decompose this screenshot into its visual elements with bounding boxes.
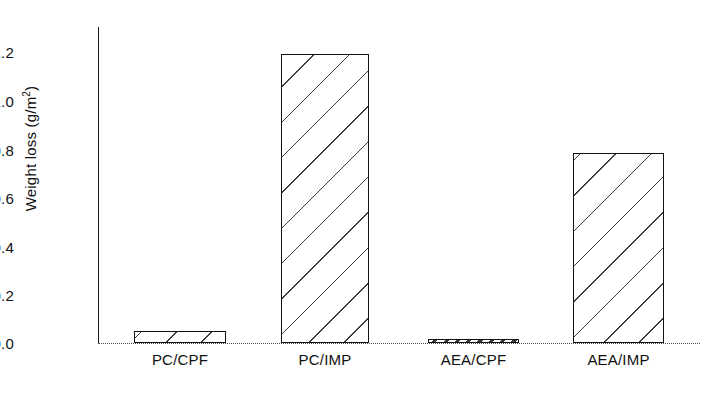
y-axis-title-text: Weight loss (g/m (22, 97, 39, 212)
chart-figure: Weight loss (g/m2) 1.2 1.0 0.8 0.6 0.4 0… (0, 0, 726, 395)
x-axis-baseline (98, 343, 700, 344)
bar-aea-imp[interactable] (573, 153, 664, 343)
bar-aea-cpf[interactable] (428, 339, 519, 343)
bar-pc-cpf[interactable] (134, 331, 226, 343)
y-tick-label-1.0: 1.0 (0, 94, 14, 109)
y-tick-label-1.2: 1.2 (0, 45, 14, 60)
plot-area (98, 27, 700, 343)
x-tick-label-aea-imp: AEA/IMP (573, 351, 664, 368)
y-axis-title-close: ) (22, 86, 39, 91)
y-axis-title-superscript: 2 (21, 91, 32, 97)
y-axis-title: Weight loss (g/m2) (22, 19, 39, 279)
x-tick-label-pc-imp: PC/IMP (281, 351, 369, 368)
y-tick-label-0.6: 0.6 (0, 191, 14, 206)
y-tick-label-0.4: 0.4 (0, 240, 14, 255)
bar-pc-imp[interactable] (281, 54, 369, 343)
y-tick-label-0.8: 0.8 (0, 143, 14, 158)
y-tick-label-0.0: 0.0 (0, 336, 14, 351)
x-tick-label-aea-cpf: AEA/CPF (428, 351, 519, 368)
x-tick-label-pc-cpf: PC/CPF (134, 351, 226, 368)
y-tick-label-0.2: 0.2 (0, 288, 14, 303)
